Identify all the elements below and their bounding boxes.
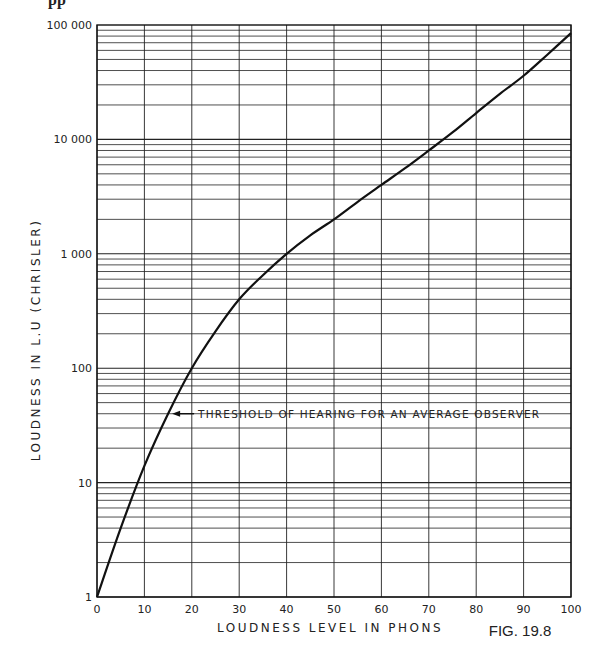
y-tick-label: 10 000 (54, 133, 93, 146)
y-tick-label: 10 (78, 477, 92, 490)
x-tick-label: 100 (561, 603, 582, 616)
x-tick-label: 90 (517, 603, 531, 616)
x-tick-label: 10 (137, 603, 151, 616)
threshold-annotation: THRESHOLD OF HEARING FOR AN AVERAGE OBSE… (172, 408, 540, 420)
x-tick-label: 20 (185, 603, 199, 616)
x-tick-label: 60 (374, 603, 388, 616)
y-tick-label: 1 000 (61, 248, 93, 261)
x-axis-label: LOUDNESS LEVEL IN PHONS (217, 621, 443, 635)
arrowhead-icon (172, 411, 180, 417)
x-tick-label: 70 (422, 603, 436, 616)
x-tick-label: 0 (94, 603, 101, 616)
chart-grid (97, 25, 571, 597)
y-tick-label: 1 (85, 591, 92, 604)
x-axis-ticks: 0102030405060708090100 (94, 603, 582, 616)
y-axis-ticks: 1101001 00010 000100 000 (47, 19, 93, 604)
x-tick-label: 40 (280, 603, 294, 616)
loudness-chart: 0102030405060708090100 1101001 00010 000… (0, 0, 603, 654)
y-axis-label: LOUDNESS IN L.U (CHRISLER) (29, 219, 43, 462)
figure-number: FIG. 19.8 (489, 622, 552, 639)
y-tick-label: 100 000 (47, 19, 93, 32)
x-tick-label: 50 (327, 603, 341, 616)
threshold-label: THRESHOLD OF HEARING FOR AN AVERAGE OBSE… (197, 408, 540, 420)
x-tick-label: 30 (232, 603, 246, 616)
y-tick-label: 100 (71, 362, 92, 375)
x-tick-label: 80 (469, 603, 483, 616)
